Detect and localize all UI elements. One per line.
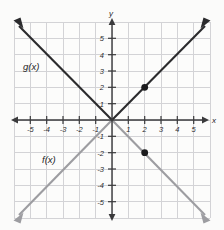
y-tick-label: -5 [97, 198, 104, 207]
x-tick-label: -3 [60, 125, 67, 134]
y-tick-label: -2 [97, 149, 104, 158]
y-axis-label: y [108, 9, 114, 18]
y-tick-label: -1 [97, 132, 104, 141]
curve-label-g: g(x) [23, 61, 39, 72]
curve-label-f: f(x) [42, 154, 56, 165]
point-f [141, 149, 148, 156]
x-tick-label: -4 [43, 125, 50, 134]
x-tick-label: 1 [126, 125, 130, 134]
y-tick-label: 4 [100, 51, 104, 60]
y-tick-label: 1 [100, 100, 104, 109]
x-tick-label: 2 [142, 125, 148, 134]
y-tick-label: -4 [97, 181, 104, 190]
x-tick-label: -2 [76, 125, 83, 134]
y-tick-label: 2 [99, 83, 105, 92]
coordinate-plane-figure: -5 -4 -3 -2 -1 1 2 3 4 5 5 4 3 2 1 -1 -2… [0, 0, 224, 230]
y-tick-label: -3 [97, 165, 104, 174]
graph-canvas: -5 -4 -3 -2 -1 1 2 3 4 5 5 4 3 2 1 -1 -2… [0, 0, 224, 230]
point-g [141, 84, 148, 91]
x-tick-label: 4 [175, 125, 179, 134]
x-tick-label: -5 [27, 125, 34, 134]
x-axis-label: x [211, 116, 217, 125]
